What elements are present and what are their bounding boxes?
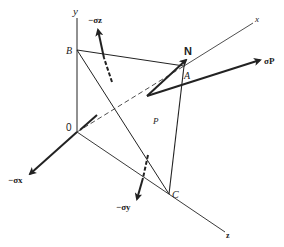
sigma-y-arrow: [137, 178, 143, 199]
sigma-z-label: −σz: [88, 15, 102, 25]
z-axis: [77, 132, 225, 232]
point-c-label: C: [172, 189, 179, 200]
sigma-y-dashed: [143, 155, 148, 178]
point-a-label: A: [183, 70, 191, 81]
sigma-z-dashed: [104, 58, 112, 82]
edge-BA: [77, 50, 184, 66]
x-axis: [184, 23, 253, 66]
sigma-x-label: −σx: [8, 175, 23, 185]
y-axis-label: y: [72, 5, 78, 17]
origin-label: 0: [66, 122, 72, 133]
sigma-x-dashed: [80, 115, 97, 130]
z-axis-label: z: [226, 231, 230, 240]
x-axis-label: x: [254, 14, 259, 24]
tetrahedron-diagram: y x z 0 B A C P N −σz −σx −σy σP: [0, 0, 284, 247]
sigma-p-arrow: [147, 60, 260, 96]
sigma-p-label: σP: [264, 56, 275, 66]
sigma-y-label: −σy: [116, 202, 131, 212]
sigma-x-arrow: [30, 132, 77, 174]
plane-p-label: P: [152, 116, 159, 126]
normal-n-label: N: [184, 45, 192, 57]
point-b-label: B: [66, 45, 72, 56]
